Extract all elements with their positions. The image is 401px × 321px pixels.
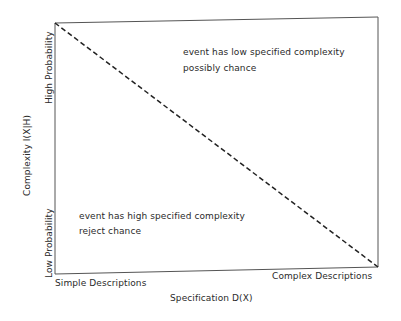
annotation-low-complexity-line2: possibly chance bbox=[183, 63, 256, 73]
annotation-high-complexity-line2: reject chance bbox=[79, 226, 141, 236]
x-axis-right-label: Complex Descriptions bbox=[272, 271, 372, 281]
y-axis-title: Complexity I(X|H) bbox=[22, 115, 32, 196]
x-axis-title: Specification D(X) bbox=[170, 293, 253, 303]
x-axis-left-label: Simple Descriptions bbox=[55, 278, 146, 288]
y-axis-bottom-label: Low Probability bbox=[44, 208, 54, 278]
y-axis-top-label: High Probability bbox=[44, 31, 54, 104]
annotation-low-complexity-line1: event has low specified complexity bbox=[183, 47, 345, 57]
annotation-high-complexity-line1: event has high specified complexity bbox=[79, 211, 245, 221]
